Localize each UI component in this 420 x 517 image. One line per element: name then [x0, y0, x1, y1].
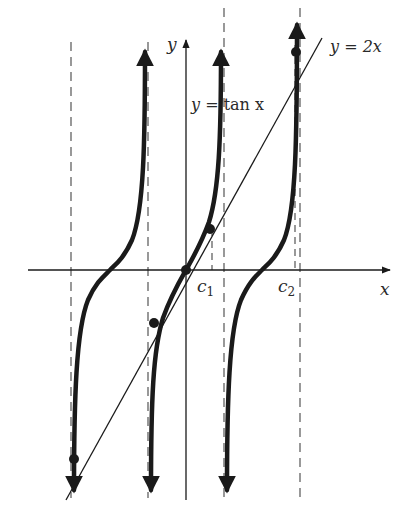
- c1-label-main: c: [197, 276, 207, 296]
- c1-label: c1: [197, 276, 214, 299]
- line-equation-label: y = 2x: [329, 37, 382, 56]
- x-axis-label: x: [380, 279, 390, 299]
- line-eq-rest: = 2x: [339, 37, 382, 56]
- point-origin: [181, 265, 191, 275]
- intersection-points: [69, 47, 301, 464]
- point-neg-c1: [149, 318, 159, 328]
- c1-label-sub: 1: [207, 285, 215, 299]
- point-c2: [291, 47, 301, 57]
- y-axis-label: y: [166, 34, 177, 54]
- tan-vs-2x-diagram: y x y = 2x y = tan x c1 c2: [0, 0, 420, 517]
- c2-label: c2: [278, 276, 295, 299]
- c2-label-sub: 2: [288, 285, 296, 299]
- c2-label-main: c: [278, 276, 288, 296]
- tan-equation-label: y = tan x: [190, 95, 264, 114]
- tan-branch-left: [74, 52, 145, 490]
- tan-eq-rest: = tan x: [200, 95, 264, 114]
- point-c1: [205, 224, 215, 234]
- point-neg-c2: [69, 454, 79, 464]
